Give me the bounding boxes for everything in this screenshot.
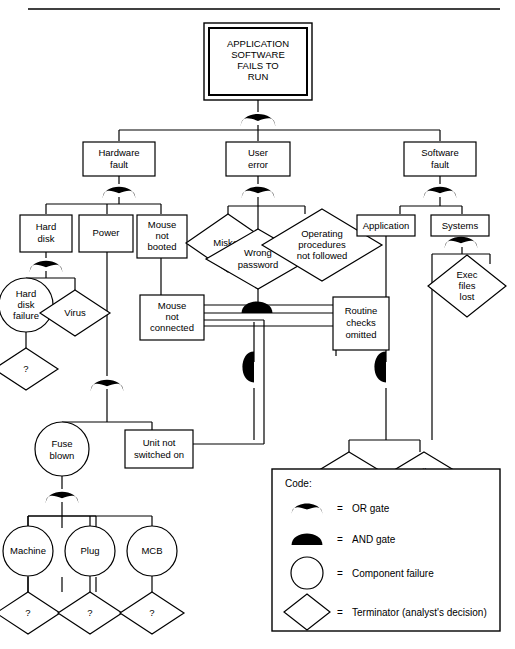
node-exec-files-lost: Exec files lost	[428, 255, 506, 317]
mouse-not-booted-line-3: booted	[147, 241, 176, 252]
legend-label-terminator: Terminator (analyst's decision)	[352, 607, 487, 618]
node-fuse-blown: Fuse blown	[35, 422, 89, 476]
mcb-label: MCB	[141, 545, 162, 556]
legend-equals-3: =	[337, 568, 343, 579]
operating-procedures-line-1: Operating	[301, 228, 343, 239]
node-top-event: APPLICATION SOFTWARE FAILS TO RUN	[204, 23, 312, 100]
legend-label-or-gate: OR gate	[352, 503, 390, 514]
node-terminator-hard-disk: ?	[0, 348, 58, 390]
exec-files-lost-line-1: Exec	[456, 269, 477, 280]
node-mcb: MCB	[127, 526, 177, 576]
virus-label: Virus	[64, 307, 86, 318]
wrong-password-line-2: password	[238, 259, 279, 270]
and-gate-icon-right-vertical	[374, 352, 386, 383]
hard-disk-failure-line-1: Hard	[16, 288, 37, 299]
top-event-line-2: SOFTWARE	[231, 49, 284, 60]
mouse-not-connected-line-3: connected	[150, 322, 194, 333]
machine-label: Machine	[10, 545, 46, 556]
operating-procedures-line-3: not followed	[297, 250, 348, 261]
top-event-line-3: FAILS TO	[237, 60, 278, 71]
terminator-q-1: ?	[23, 363, 28, 374]
power-label: Power	[93, 227, 120, 238]
mouse-not-connected-line-2: not	[165, 311, 179, 322]
user-error-line-1: User	[248, 147, 268, 158]
fault-tree-diagram: APPLICATION SOFTWARE FAILS TO RUN Hardwa…	[0, 0, 515, 649]
legend-label-and-gate: AND gate	[352, 534, 396, 545]
hard-disk-failure-line-2: disk	[18, 299, 35, 310]
routine-checks-line-1: Routine	[345, 305, 378, 316]
unit-not-switched-line-2: switched on	[134, 449, 184, 460]
fault-tree-canvas: APPLICATION SOFTWARE FAILS TO RUN Hardwa…	[0, 0, 515, 649]
legend-label-component-failure: Component failure	[352, 568, 434, 579]
hard-disk-failure-line-3: failure	[13, 310, 39, 321]
node-software-fault: Software fault	[404, 142, 476, 176]
terminator-q-3: ?	[87, 607, 92, 618]
top-event-line-1: APPLICATION	[227, 38, 289, 49]
routine-checks-line-3: omitted	[345, 329, 376, 340]
hard-disk-line-1: Hard	[36, 221, 57, 232]
exec-files-lost-line-2: files	[459, 280, 476, 291]
hardware-fault-line-1: Hardware	[98, 147, 139, 158]
legend-equals-1: =	[337, 503, 343, 514]
top-event-line-4: RUN	[248, 71, 269, 82]
software-fault-line-1: Software	[421, 147, 459, 158]
node-mouse-not-booted: Mouse not booted	[137, 215, 187, 258]
node-terminator-mcb: ?	[120, 592, 184, 634]
node-power: Power	[79, 215, 133, 252]
fuse-blown-line-2: blown	[50, 450, 75, 461]
node-unit-not-switched-on: Unit not switched on	[125, 430, 193, 468]
mouse-not-booted-line-2: not	[155, 230, 169, 241]
legend-box: Code: = OR gate = AND gate = Component f…	[272, 469, 500, 631]
routine-checks-line-2: checks	[346, 317, 376, 328]
software-fault-line-2: fault	[431, 159, 449, 170]
operating-procedures-line-2: procedures	[298, 239, 346, 250]
terminator-q-2: ?	[25, 607, 30, 618]
legend-circle-icon	[291, 557, 323, 589]
node-user-error: User error	[226, 142, 290, 176]
node-hard-disk: Hard disk	[20, 215, 72, 252]
node-machine: Machine	[3, 526, 53, 576]
application-label: Application	[363, 220, 409, 231]
legend-title: Code:	[285, 478, 312, 489]
user-error-line-2: error	[248, 159, 268, 170]
fuse-blown-line-1: Fuse	[51, 438, 72, 449]
and-gate-icon-middle-vertical	[242, 352, 254, 383]
terminator-q-4: ?	[149, 607, 154, 618]
systems-label: Systems	[442, 220, 479, 231]
node-routine-checks-omitted: Routine checks omitted	[333, 297, 389, 350]
node-hard-disk-failure: Hard disk failure	[0, 278, 53, 332]
node-plug: Plug	[65, 526, 115, 576]
node-hardware-fault: Hardware fault	[83, 142, 155, 176]
mouse-not-booted-line-1: Mouse	[148, 219, 177, 230]
plug-label: Plug	[80, 545, 99, 556]
legend-equals-2: =	[337, 534, 343, 545]
mouse-not-connected-line-1: Mouse	[158, 300, 187, 311]
hard-disk-line-2: disk	[38, 233, 55, 244]
and-gate-icon-user-branch	[242, 301, 273, 313]
exec-files-lost-line-3: lost	[460, 291, 475, 302]
hardware-fault-line-2: fault	[110, 159, 128, 170]
node-application: Application	[357, 215, 415, 236]
or-gate-icon-systems	[445, 237, 478, 249]
node-terminator-plug: ?	[58, 592, 122, 634]
legend-equals-4: =	[337, 607, 343, 618]
node-mouse-not-connected: Mouse not connected	[140, 295, 204, 340]
node-terminator-machine: ?	[0, 592, 60, 634]
unit-not-switched-line-1: Unit not	[143, 437, 176, 448]
node-systems: Systems	[431, 215, 489, 236]
